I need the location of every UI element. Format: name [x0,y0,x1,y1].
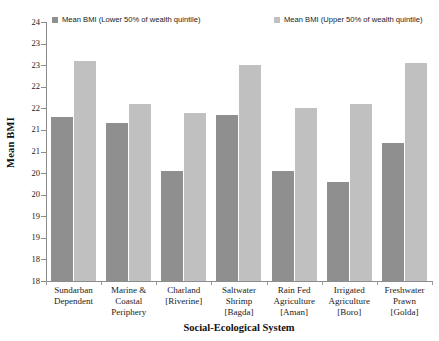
x-axis-label-line: Periphery [101,307,156,318]
bar-upper-quintile [129,104,151,281]
x-axis-title: Social-Ecological System [46,322,432,333]
bar-lower-quintile [327,182,349,281]
bar-lower-quintile [51,117,73,281]
x-axis-label-line: Dependent [46,296,101,307]
x-axis-label-line: Marine & [101,285,156,296]
x-axis-category-labels: SundarbanDependentMarine &CoastalPeriphe… [46,285,432,327]
x-axis-label-line: Rain Fed [267,285,322,296]
legend-label: Mean BMI (Upper 50% of wealth quintile) [284,16,422,24]
bar-upper-quintile [350,104,372,281]
x-axis-category-label: Charland[Riverine] [156,285,211,307]
x-axis-label-line: Agriculture [267,296,322,307]
bar-upper-quintile [295,108,317,281]
y-axis-tick-label: 20 [14,169,40,178]
chart-legend: Mean BMI (Lower 50% of wealth quintile)M… [52,16,437,28]
bar-group [377,22,432,281]
y-axis-tick-label: 23 [14,61,40,70]
bar-upper-quintile [74,61,96,281]
bar-group [46,22,101,281]
bar-group [211,22,266,281]
bar-group [156,22,211,281]
x-axis-category-label: Rain FedAgriculture[Aman] [267,285,322,319]
x-axis-category-label: IrrigatedAgriculture[Boro] [322,285,377,319]
x-axis-label-line: [Boro] [322,307,377,318]
legend-label: Mean BMI (Lower 50% of wealth quintile) [62,16,200,24]
bar-lower-quintile [106,123,128,281]
y-axis-tick-label: 19 [14,233,40,242]
y-axis-tick-label: 22 [14,104,40,113]
x-axis-label-line: Irrigated [322,285,377,296]
x-axis-label-line: Shrimp [211,296,266,307]
x-axis-label-line: Prawn [377,296,432,307]
x-axis-label-line: [Golda] [377,307,432,318]
legend-item[interactable]: Mean BMI (Upper 50% of wealth quintile) [274,16,422,24]
x-axis-label-line: [Bagda] [211,307,266,318]
x-axis-label-line: Charland [156,285,211,296]
y-axis-tick-label: 18 [14,255,40,264]
x-axis-label-line: Saltwater [211,285,266,296]
bar-group [101,22,156,281]
x-axis-category-label: SaltwaterShrimp[Bagda] [211,285,266,319]
bar-group [267,22,322,281]
legend-swatch-icon [52,17,58,23]
x-axis-category-label: FreshwaterPrawn[Golda] [377,285,432,319]
bar-lower-quintile [161,171,183,281]
y-axis-tick-label: 18 [14,277,40,286]
y-axis-tick-label: 24 [14,18,40,27]
y-axis-tick-label: 23 [14,39,40,48]
bar-lower-quintile [382,143,404,281]
bar-group [322,22,377,281]
legend-item[interactable]: Mean BMI (Lower 50% of wealth quintile) [52,16,200,24]
x-axis-label-line: Sundarban [46,285,101,296]
y-axis-tick-label: 21 [14,125,40,134]
x-axis-label-line: [Aman] [267,307,322,318]
y-axis-tick-label: 20 [14,190,40,199]
bar-upper-quintile [239,65,261,281]
x-axis-line [46,281,432,282]
bar-upper-quintile [405,63,427,281]
x-axis-category-label: Marine &CoastalPeriphery [101,285,156,319]
y-axis-tick-label: 21 [14,147,40,156]
bar-lower-quintile [216,115,238,281]
legend-swatch-icon [274,17,280,23]
x-axis-label-line: [Riverine] [156,296,211,307]
y-axis-tick-labels: 24232322222121202019191818 [8,0,40,341]
x-axis-label-line: Freshwater [377,285,432,296]
x-axis-separator [432,281,433,285]
plot-area [46,22,432,281]
bar-lower-quintile [272,171,294,281]
bar-upper-quintile [184,113,206,281]
x-axis-label-line: Coastal [101,296,156,307]
y-axis-tick-label: 19 [14,212,40,221]
x-axis-label-line: Agriculture [322,296,377,307]
x-axis-category-label: SundarbanDependent [46,285,101,307]
bar-chart: Mean BMI 24232322222121202019191818 Sund… [0,0,439,341]
y-axis-tick-label: 22 [14,82,40,91]
